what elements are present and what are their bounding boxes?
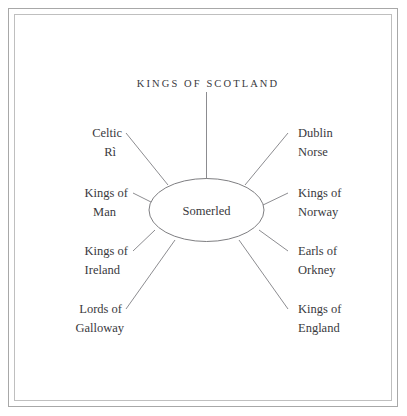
node-label-dublin-norse-line2: Norse — [298, 145, 328, 159]
spoke-kings-of-norway — [263, 193, 288, 205]
spoke-celtic-ri — [126, 133, 168, 185]
node-label-kings-of-man-line2: Man — [93, 205, 117, 219]
node-label-kings-of-scotland: KINGS OF SCOTLAND — [137, 78, 279, 89]
somerled-relationship-diagram: KINGS OF SCOTLAND Somerled Celtic Rì Kin… — [0, 0, 407, 416]
node-label-celtic-ri-line1: Celtic — [92, 126, 122, 140]
node-label-kings-of-norway-line1: Kings of — [298, 186, 342, 200]
node-kings-of-norway: Kings of Norway — [298, 186, 342, 219]
node-kings-of-england: Kings of England — [298, 302, 342, 335]
center-node-label: Somerled — [183, 204, 232, 218]
node-lords-of-galloway: Lords of Galloway — [75, 302, 124, 335]
node-label-kings-of-ireland-line2: Ireland — [85, 263, 121, 277]
spoke-kings-of-man — [133, 193, 153, 203]
node-label-kings-of-man-line1: Kings of — [85, 186, 129, 200]
node-label-celtic-ri-line2: Rì — [104, 145, 116, 159]
spoke-kings-of-ireland — [133, 230, 155, 251]
node-label-lords-of-galloway-line1: Lords of — [79, 302, 123, 316]
node-label-earls-of-orkney-line1: Earls of — [298, 244, 338, 258]
node-label-kings-of-england-line2: England — [298, 321, 340, 335]
node-dublin-norse: Dublin Norse — [298, 126, 333, 159]
node-label-kings-of-england-line1: Kings of — [298, 302, 342, 316]
node-kings-of-ireland: Kings of Ireland — [85, 244, 129, 277]
node-earls-of-orkney: Earls of Orkney — [298, 244, 338, 277]
node-celtic-ri: Celtic Rì — [92, 126, 122, 159]
node-kings-of-man: Kings of Man — [85, 186, 129, 219]
diagram-page: KINGS OF SCOTLAND Somerled Celtic Rì Kin… — [0, 0, 407, 416]
spoke-kings-of-england — [239, 240, 288, 309]
node-label-dublin-norse-line1: Dublin — [298, 126, 333, 140]
spoke-earls-of-orkney — [259, 230, 288, 251]
node-label-lords-of-galloway-line2: Galloway — [75, 321, 124, 335]
node-label-kings-of-ireland-line1: Kings of — [85, 244, 129, 258]
node-label-kings-of-norway-line2: Norway — [298, 205, 339, 219]
spoke-dublin-norse — [245, 133, 288, 185]
node-label-earls-of-orkney-line2: Orkney — [298, 263, 336, 277]
